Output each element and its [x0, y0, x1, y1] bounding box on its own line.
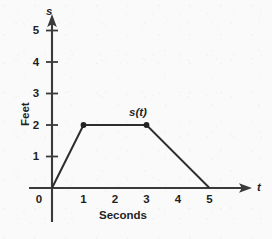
y-tick-label-3: 3	[30, 88, 42, 100]
curve-s-of-t	[52, 125, 210, 188]
x-tick-label-2: 2	[109, 194, 121, 206]
y-tick-label-1: 1	[30, 151, 42, 163]
x-axis-variable-label: t	[257, 182, 261, 194]
y-axis-variable-label: s	[46, 6, 52, 18]
x-tick-label-3: 3	[141, 194, 153, 206]
x-axis-title: Seconds	[99, 210, 147, 222]
x-tick-label-0: 0	[33, 194, 45, 206]
data-point-marker	[144, 122, 150, 128]
x-tick-label-1: 1	[78, 194, 90, 206]
data-point-marker	[81, 122, 87, 128]
figure-canvas: s t 1 2 3 4 5 0 1 2 3 4 5 s(t) Seconds F…	[0, 0, 272, 239]
y-tick-label-2: 2	[30, 120, 42, 132]
y-tick-label-5: 5	[30, 25, 42, 37]
x-tick-label-5: 5	[204, 194, 216, 206]
x-tick-label-4: 4	[172, 194, 184, 206]
y-axis-title: Feet	[20, 102, 32, 126]
curve-label-s-of-t: s(t)	[129, 107, 147, 119]
y-tick-label-4: 4	[30, 57, 42, 69]
